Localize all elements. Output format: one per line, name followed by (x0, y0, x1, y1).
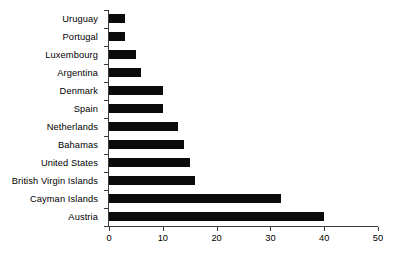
x-axis-tick (324, 227, 325, 231)
x-axis-tick-label: 50 (363, 233, 393, 243)
category-label: British Virgin Islands (0, 172, 104, 190)
category-label: Uruguay (0, 10, 104, 28)
category-label: Cayman Islands (0, 190, 104, 208)
x-axis-tick (217, 227, 218, 231)
bar (109, 122, 178, 131)
category-label: Argentina (0, 64, 104, 82)
category-label: Denmark (0, 82, 104, 100)
y-axis-tick (104, 172, 108, 173)
category-label: United States (0, 154, 104, 172)
plot-area: 01020304050 (109, 10, 378, 226)
bar (109, 140, 184, 149)
bar (109, 50, 136, 59)
category-label: Austria (0, 208, 104, 226)
bar (109, 104, 163, 113)
y-axis-tick (104, 190, 108, 191)
bar-chart: Uruguay Portugal Luxembourg Argentina De… (0, 0, 404, 256)
bar (109, 212, 324, 221)
category-label: Netherlands (0, 118, 104, 136)
y-axis-tick (104, 10, 108, 11)
y-axis-tick (104, 82, 108, 83)
x-axis-tick-label: 30 (255, 233, 285, 243)
category-label: Luxembourg (0, 46, 104, 64)
x-axis-tick (378, 227, 379, 231)
y-axis-tick (104, 136, 108, 137)
y-axis-tick (104, 118, 108, 119)
y-axis-tick (104, 28, 108, 29)
y-axis-tick (104, 226, 108, 227)
x-axis-tick-label: 40 (309, 233, 339, 243)
x-axis-tick-label: 10 (148, 233, 178, 243)
x-axis-tick (109, 227, 110, 231)
x-axis-tick (163, 227, 164, 231)
bar (109, 86, 163, 95)
x-axis-tick-label: 20 (202, 233, 232, 243)
y-axis-tick (104, 100, 108, 101)
bar (109, 32, 125, 41)
y-axis-tick (104, 46, 108, 47)
bar (109, 14, 125, 23)
x-axis-tick (270, 227, 271, 231)
category-label: Bahamas (0, 136, 104, 154)
category-axis: Uruguay Portugal Luxembourg Argentina De… (0, 10, 104, 226)
category-label: Portugal (0, 28, 104, 46)
bar (109, 176, 195, 185)
y-axis-tick (104, 154, 108, 155)
bar (109, 68, 141, 77)
y-axis-tick (104, 64, 108, 65)
bar (109, 194, 281, 203)
category-label: Spain (0, 100, 104, 118)
x-axis-line (108, 226, 378, 227)
x-axis-tick-label: 0 (94, 233, 124, 243)
y-axis-tick (104, 208, 108, 209)
bar (109, 158, 190, 167)
